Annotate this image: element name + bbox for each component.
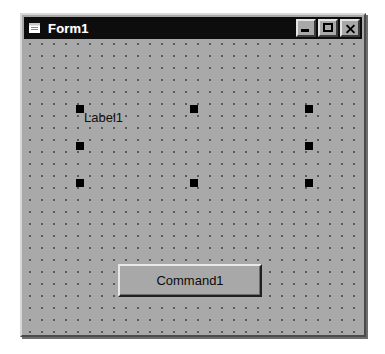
selection-handle-middle-right[interactable]: [305, 142, 313, 150]
selection-handle-bottom-right[interactable]: [305, 179, 313, 187]
minimize-button[interactable]: [296, 19, 316, 37]
label-caption: Label1: [84, 110, 123, 125]
selection-handle-bottom-center[interactable]: [190, 179, 198, 187]
form-design-surface[interactable]: Label1 Command1: [24, 39, 362, 333]
selection-handle-middle-left[interactable]: [76, 142, 84, 150]
form-designer-window[interactable]: Form1 Label1: [20, 13, 366, 337]
selection-handle-top-right[interactable]: [305, 105, 313, 113]
command-button-caption: Command1: [156, 273, 223, 288]
title-bar[interactable]: Form1: [24, 17, 362, 39]
maximize-icon: [323, 23, 333, 32]
command-button-command1[interactable]: Command1: [118, 264, 262, 297]
label-control-label1[interactable]: Label1: [80, 109, 317, 191]
selection-handle-top-left[interactable]: [76, 105, 84, 113]
window-title: Form1: [48, 21, 296, 36]
minimize-icon: [301, 29, 309, 32]
selection-handle-bottom-left[interactable]: [76, 179, 84, 187]
caption-button-group: [296, 19, 360, 37]
close-icon: [342, 21, 358, 35]
close-button[interactable]: [340, 19, 360, 37]
maximize-button[interactable]: [318, 19, 338, 37]
selection-handle-top-center[interactable]: [190, 105, 198, 113]
vb-form-icon: [28, 21, 43, 35]
